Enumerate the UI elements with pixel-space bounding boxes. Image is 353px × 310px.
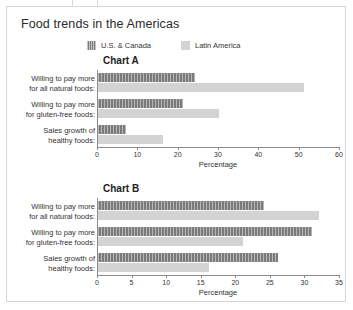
legend-item-latin-america: Latin America xyxy=(181,41,240,50)
chart-b-bar-latin-america-1 xyxy=(98,237,243,246)
chart-b-x-axis xyxy=(97,275,339,276)
chart-a-bar-group-1 xyxy=(98,99,339,119)
x-tick-label: 35 xyxy=(335,279,343,286)
chart-b-bar-us-canada-0 xyxy=(98,201,264,210)
x-tick xyxy=(132,275,133,278)
legend-label-latin-america: Latin America xyxy=(195,41,240,50)
chart-b-bar-us-canada-2 xyxy=(98,253,278,262)
chart-b-x-axis-label: Percentage xyxy=(97,288,339,297)
chart-b-bar-us-canada-1 xyxy=(98,227,312,236)
x-tick xyxy=(201,275,202,278)
chart-b-category-label-2: Sales growth of healthy foods: xyxy=(15,254,95,273)
x-tick-label: 15 xyxy=(197,279,205,286)
chart-a-x-axis-label: Percentage xyxy=(97,160,339,169)
chart-a-category-label-1: Willing to pay more for gluten-free food… xyxy=(15,100,95,119)
chart-a-bar-group-0 xyxy=(98,73,339,93)
x-tick xyxy=(339,147,340,150)
x-tick-label: 20 xyxy=(231,279,239,286)
x-tick xyxy=(299,147,300,150)
x-tick-label: 30 xyxy=(214,151,222,158)
chart-a-bar-us-canada-1 xyxy=(98,99,183,108)
x-tick-label: 30 xyxy=(301,279,309,286)
chart-a-bar-latin-america-2 xyxy=(98,135,163,144)
chart-b-bar-group-0 xyxy=(98,201,339,221)
x-tick xyxy=(137,147,138,150)
chart-a-title: Chart A xyxy=(103,55,139,66)
x-tick xyxy=(166,275,167,278)
x-tick-label: 20 xyxy=(174,151,182,158)
legend-label-us-canada: U.S. & Canada xyxy=(101,41,151,50)
x-tick-label: 5 xyxy=(130,279,134,286)
page-title: Food trends in the Americas xyxy=(21,17,179,31)
x-tick-label: 25 xyxy=(266,279,274,286)
chart-a-bar-us-canada-0 xyxy=(98,73,195,82)
chart-card: Food trends in the Americas U.S. & Canad… xyxy=(6,6,346,302)
chart-b-category-label-0: Willing to pay more for all natural food… xyxy=(15,202,95,221)
chart-a-category-label-2: Sales growth of healthy foods: xyxy=(15,126,95,145)
chart-a-bar-latin-america-0 xyxy=(98,83,304,92)
x-tick-label: 0 xyxy=(95,279,99,286)
chart-b-bar-group-2 xyxy=(98,253,339,273)
x-tick xyxy=(339,275,340,278)
chart-b-plot-area xyxy=(97,198,339,275)
chart-a-category-label-0: Willing to pay more for all natural food… xyxy=(15,74,95,93)
chart-b-category-label-1: Willing to pay more for gluten-free food… xyxy=(15,228,95,247)
chart-b-bar-group-1 xyxy=(98,227,339,247)
chart-b-bar-latin-america-2 xyxy=(98,263,209,272)
x-tick xyxy=(178,147,179,150)
x-tick-label: 60 xyxy=(335,151,343,158)
x-tick-label: 10 xyxy=(133,151,141,158)
x-tick-label: 10 xyxy=(162,279,170,286)
chart-a-bar-us-canada-2 xyxy=(98,125,126,134)
chart-a-bar-latin-america-1 xyxy=(98,109,219,118)
x-tick xyxy=(258,147,259,150)
x-tick-label: 40 xyxy=(254,151,262,158)
x-tick-label: 50 xyxy=(295,151,303,158)
chart-a-plot-area xyxy=(97,70,339,147)
x-tick xyxy=(97,275,98,278)
chart-b: Chart B Willing to pay more for all natu… xyxy=(7,183,347,301)
chart-b-bar-latin-america-0 xyxy=(98,211,319,220)
x-tick xyxy=(218,147,219,150)
x-tick xyxy=(97,147,98,150)
x-tick xyxy=(304,275,305,278)
chart-legend: U.S. & Canada Latin America xyxy=(87,41,270,50)
legend-swatch-us-canada-icon xyxy=(87,41,96,50)
chart-a-bar-group-2 xyxy=(98,125,339,145)
chart-a: Chart A Willing to pay more for all natu… xyxy=(7,55,347,173)
x-tick-label: 0 xyxy=(95,151,99,158)
legend-item-us-canada: U.S. & Canada xyxy=(87,41,151,50)
x-tick xyxy=(270,275,271,278)
x-tick xyxy=(235,275,236,278)
chart-b-title: Chart B xyxy=(103,183,139,194)
legend-swatch-latin-america-icon xyxy=(181,41,190,50)
